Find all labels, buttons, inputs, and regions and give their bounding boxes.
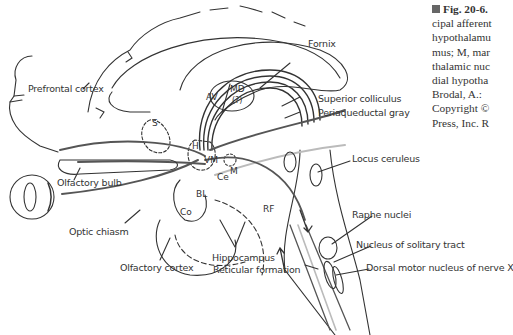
caption-line-2: hypothalamu [432,30,502,44]
abbr-ce: Ce [217,172,229,182]
abbr-s: S [152,118,158,128]
caption-line-5: dial hypotha [432,73,502,87]
label-nucleus-solitary-tract: Nucleus of solitary tract [356,239,465,250]
abbr-h: H [192,141,199,151]
label-locus-ceruleus: Locus ceruleus [352,153,420,164]
label-prefrontal-cortex: Prefrontal cortex [28,83,104,94]
figure-caption: Fig. 20-6. cipal afferent hypothalamu mu… [432,2,502,130]
abbr-co: Co [180,207,192,217]
caption-line-0: Fig. 20-6. [432,2,502,16]
label-olfactory-cortex: Olfactory cortex [120,262,193,273]
label-olfactory-bulb: Olfactory bulb [57,177,122,188]
abbr-rf: RF [263,204,274,214]
label-superior-colliculus: Superior colliculus [318,93,401,104]
label-dorsal-motor-nucleus: Dorsal motor nucleus of nerve X [366,262,513,273]
label-fornix: Fornix [308,38,336,49]
cortex-outline [88,6,305,112]
caption-square-icon [432,5,440,13]
abbr-vm: VM [204,155,218,165]
caption-line-4: thalamic nuc [432,59,502,73]
abbr-md-question: (?) [232,96,243,105]
caption-line-1: cipal afferent [432,16,502,30]
label-reticular-formation: Reticular formation [213,264,300,275]
caption-line-7: Copyright © [432,101,502,115]
abbr-m: M [230,166,238,176]
abbr-av: AV [206,92,218,102]
abbr-md: MD [230,84,245,94]
label-raphe-nuclei: Raphe nuclei [352,209,411,220]
label-hippocampus: Hippocampus [212,252,275,263]
label-periaqueductal-gray: Periaqueductal gray [318,107,410,118]
caption-line-3: mus; M, mar [432,45,502,59]
abbr-bl: BL [196,189,207,199]
label-optic-chiasm: Optic chiasm [69,226,129,237]
caption-line-6: Brodal, A.: [432,87,502,101]
caption-line-8: Press, Inc. R [432,116,502,130]
eye [10,175,54,219]
prefrontal-outline [9,56,58,152]
